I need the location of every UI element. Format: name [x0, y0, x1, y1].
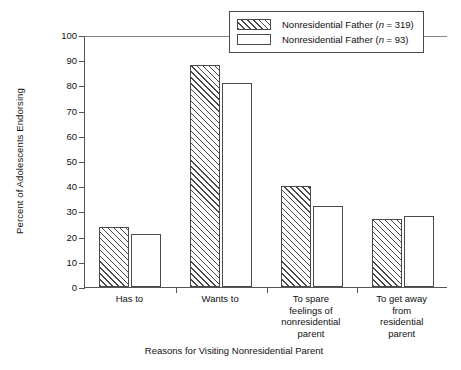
- category-label-line: residential: [356, 316, 447, 328]
- y-tick-mark: [79, 187, 85, 188]
- category-label-line: To get away: [356, 293, 447, 305]
- y-tick-label: 100: [47, 31, 77, 41]
- y-tick-mark: [79, 137, 85, 138]
- category-label-line: Has to: [84, 293, 175, 305]
- category-label-line: from: [356, 305, 447, 317]
- category-label-line: nonresidential: [266, 316, 357, 328]
- y-tick-label: 20: [47, 233, 77, 243]
- y-tick-label: 90: [47, 56, 77, 66]
- category-label: Has to: [84, 293, 175, 305]
- category-label: To get awayfromresidentialparent: [356, 293, 447, 339]
- y-tick-mark: [79, 263, 85, 264]
- y-tick-mark: [79, 86, 85, 87]
- y-axis-title: Percent of Adolescents Endorsing: [14, 46, 30, 276]
- y-tick-label: 0: [47, 283, 77, 293]
- bar: [99, 227, 129, 287]
- bar: [372, 219, 402, 287]
- bar: [222, 83, 252, 287]
- y-tick-label: 10: [47, 258, 77, 268]
- bar: [313, 206, 343, 287]
- legend-item: Nonresidential Father (n = 319): [237, 17, 414, 32]
- legend-swatch-hatched: [237, 19, 271, 30]
- bar: [404, 216, 434, 287]
- category-label-line: feelings of: [266, 305, 357, 317]
- y-tick-mark: [79, 162, 85, 163]
- y-tick-label: 80: [47, 81, 77, 91]
- legend-item: Nonresidential Father (n = 93): [237, 32, 414, 47]
- bar: [131, 234, 161, 287]
- y-tick-label: 30: [47, 207, 77, 217]
- legend-swatch-open: [237, 34, 271, 45]
- bar-chart-figure: Percent of Adolescents Endorsing 0102030…: [0, 0, 461, 370]
- y-tick-mark: [79, 112, 85, 113]
- y-tick-label: 70: [47, 107, 77, 117]
- category-label: Wants to: [175, 293, 266, 305]
- y-tick-mark: [79, 238, 85, 239]
- y-tick-mark: [79, 61, 85, 62]
- category-label: To sparefeelings ofnonresidentialparent: [266, 293, 357, 339]
- bar: [281, 186, 311, 287]
- y-tick-label: 50: [47, 157, 77, 167]
- x-axis-title: Reasons for Visiting Nonresidential Pare…: [84, 345, 384, 356]
- category-label-line: Wants to: [175, 293, 266, 305]
- chart-legend: Nonresidential Father (n = 319) Nonresid…: [229, 11, 424, 53]
- category-label-line: To spare: [266, 293, 357, 305]
- y-tick-mark: [79, 288, 85, 289]
- y-tick-mark: [79, 212, 85, 213]
- y-tick-mark: [79, 36, 85, 37]
- legend-label-series-2: Nonresidential Father (n = 93): [282, 34, 409, 45]
- category-label-line: parent: [266, 328, 357, 340]
- plot-area: 0102030405060708090100: [84, 36, 447, 288]
- bar: [190, 65, 220, 287]
- y-tick-label: 40: [47, 182, 77, 192]
- y-tick-label: 60: [47, 132, 77, 142]
- legend-label-series-1: Nonresidential Father (n = 319): [282, 19, 414, 30]
- category-label-line: parent: [356, 328, 447, 340]
